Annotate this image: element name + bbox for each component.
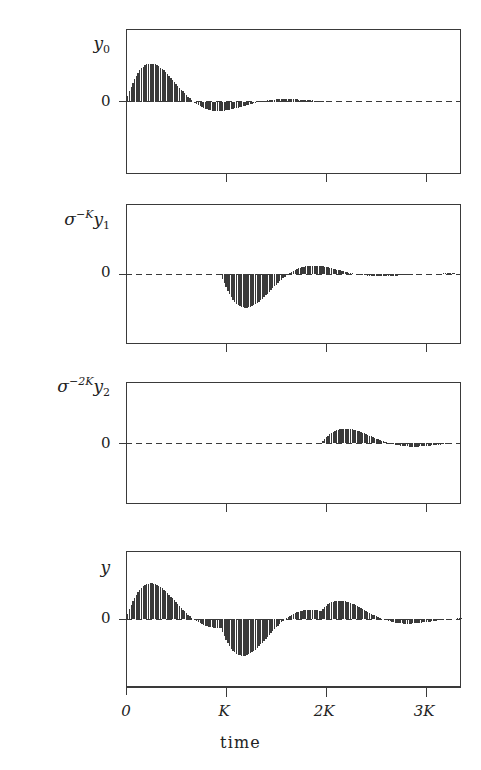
- xtick-label-0: 0: [106, 702, 146, 720]
- panel-y1-label: σ−Ky1: [20, 208, 110, 232]
- panel-y0-label-sub: 0: [103, 43, 110, 56]
- panel-y2-plot: [126, 382, 461, 504]
- figure-root: y0 0 σ−Ky1 0 σ−2Ky2 0 y 0 0 K 2K 3K tim: [0, 0, 481, 770]
- panel-y2-label-main: y: [93, 376, 103, 396]
- panel-y-plot: [126, 551, 461, 687]
- panel-y1-plot: [126, 204, 461, 344]
- panel-y2-label-pre: σ: [57, 376, 69, 396]
- panel-y1-bottom-ticks: [126, 344, 461, 356]
- panel-y1-label-pre-sup: −K: [76, 208, 93, 221]
- panel-y0-bottom-ticks: [126, 174, 461, 186]
- xtick-label-2K: 2K: [304, 702, 344, 720]
- panel-y-label-main: y: [100, 557, 110, 577]
- panel-y1-label-main: y: [93, 209, 103, 229]
- panel-y2-bottom-ticks: [126, 504, 461, 516]
- x-axis: [126, 687, 466, 703]
- x-axis-title: time: [0, 733, 481, 752]
- panel-y0-label: y0: [20, 32, 110, 56]
- panel-y1-zero-label: 0: [101, 263, 111, 281]
- panel-y2-label-sub: 2: [103, 386, 110, 399]
- xtick-label-3K: 3K: [404, 702, 444, 720]
- panel-y2-label: σ−2Ky2: [10, 375, 110, 399]
- panel-y0-plot: [126, 29, 461, 174]
- xtick-label-K: K: [204, 702, 244, 720]
- panel-y-label: y: [20, 556, 110, 580]
- panel-y2-label-pre-sup: −2K: [69, 375, 93, 388]
- panel-y1-label-pre: σ: [64, 209, 76, 229]
- panel-y-zero-label: 0: [101, 609, 111, 627]
- panel-y1-label-sub: 1: [103, 219, 110, 232]
- panel-y0-zero-label: 0: [101, 92, 111, 110]
- panel-y2-zero-label: 0: [101, 434, 111, 452]
- panel-y0-label-main: y: [93, 33, 103, 53]
